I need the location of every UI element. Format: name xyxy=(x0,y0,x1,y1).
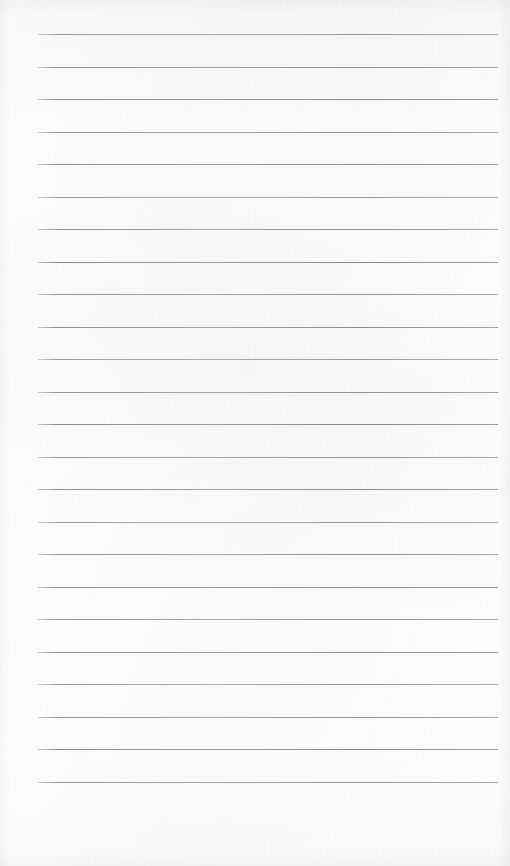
notepad-page xyxy=(0,0,510,866)
writing-area[interactable] xyxy=(38,20,498,810)
